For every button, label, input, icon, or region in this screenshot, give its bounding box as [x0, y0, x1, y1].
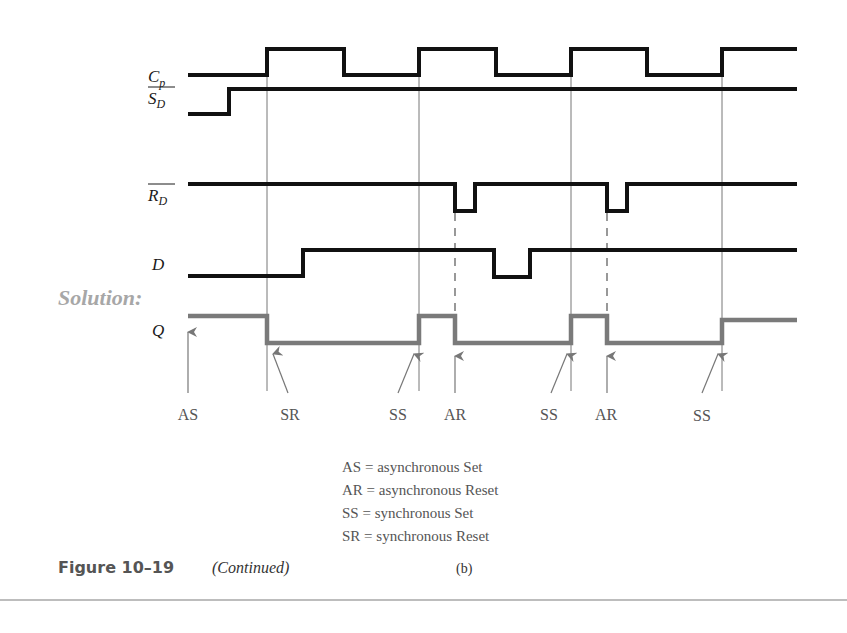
timing-diagram: Cp SD RD D Q Solution: — [0, 0, 847, 633]
arrow-ss-2 — [551, 354, 567, 393]
signal-label-d: D — [151, 255, 165, 274]
signal-labels: Cp SD RD D Q Solution: — [58, 67, 175, 340]
event-label-ar-1: AR — [444, 406, 467, 423]
legend-item-as: AS = asynchronous Set — [342, 459, 483, 475]
solution-label: Solution: — [58, 285, 142, 310]
legend-item-ss: SS = synchronous Set — [342, 505, 474, 521]
svg-text:RD: RD — [147, 186, 167, 208]
event-label-sr: SR — [280, 406, 300, 423]
event-labels: AS SR SS AR SS AR SS — [178, 406, 711, 424]
event-label-ss-2: SS — [540, 406, 558, 423]
waveform-d — [188, 250, 797, 277]
arrow-sr — [273, 354, 288, 393]
legend-item-ar: AR = asynchronous Reset — [342, 482, 499, 498]
caption-figure-number: Figure 10–19 — [58, 558, 174, 577]
event-label-as: AS — [178, 406, 198, 423]
svg-text:SD: SD — [148, 89, 166, 111]
waveform-q — [188, 316, 797, 343]
event-label-ar-2: AR — [595, 406, 618, 423]
waveform-rd-bar — [188, 184, 797, 211]
event-label-ss-1: SS — [389, 406, 407, 423]
legend: AS = asynchronous Set AR = asynchronous … — [342, 459, 499, 544]
arrow-ss-3 — [702, 354, 718, 393]
figure-caption: Figure 10–19 (Continued) (b) — [58, 558, 473, 577]
arrow-ss-1 — [398, 354, 414, 393]
signal-label-q: Q — [152, 321, 164, 340]
signal-label-sd: SD — [148, 87, 175, 111]
caption-continued: (Continued) — [212, 559, 289, 577]
waveform-cp — [188, 49, 797, 75]
waveform-sd-bar — [188, 89, 797, 114]
event-label-ss-3: SS — [693, 407, 711, 424]
signal-label-rd: RD — [147, 184, 175, 208]
legend-item-sr: SR = synchronous Reset — [342, 528, 490, 544]
waveforms — [188, 49, 797, 343]
caption-part-label: (b) — [456, 561, 473, 577]
